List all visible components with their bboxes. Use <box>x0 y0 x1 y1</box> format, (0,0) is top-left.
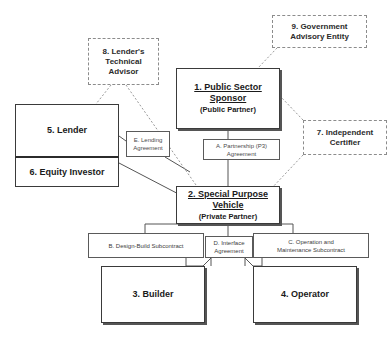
entity-equity-investor[interactable]: 6. Equity Investor <box>15 158 119 187</box>
entity-government-advisory-entity[interactable]: 9. Government Advisory Entity <box>272 15 367 48</box>
entity-operator[interactable]: 4. Operator <box>253 266 357 323</box>
line-certifier7-to-sponsor <box>281 97 303 120</box>
line-advisor9-to-sponsor <box>258 48 277 68</box>
line-advisor8-to-lender <box>96 85 111 104</box>
line-lender-to-lending <box>119 136 126 141</box>
equity-investor-title: 6. Equity Investor <box>29 167 104 178</box>
agreement-lending[interactable]: E. Lending Agreement <box>126 131 170 157</box>
agreement-partnership[interactable]: A. Partnership (P3) Agreement <box>203 139 280 160</box>
spv-role: (Private Partner) <box>199 212 257 222</box>
gov-advisory-title-line1: 9. Government <box>291 22 347 32</box>
partnership-label-line1: A. Partnership (P3) <box>216 142 267 150</box>
spv-title-line1: 2. Special Purpose <box>188 189 268 200</box>
sponsor-title-line1: 1. Public Sector <box>194 82 262 93</box>
advisor-title-line2: Technical <box>105 57 141 67</box>
entity-lender[interactable]: 5. Lender <box>15 104 119 158</box>
sponsor-title-line2: Sponsor <box>210 93 247 104</box>
agreement-design-build[interactable]: B. Design-Build Subcontract <box>88 233 204 258</box>
partnership-label-line2: Agreement <box>227 150 256 158</box>
om-label-line1: C. Operation and <box>288 238 334 246</box>
advisor-title-line1: 8. Lender's <box>103 47 145 57</box>
certifier-title-line1: 7. Independent <box>317 128 373 138</box>
design-build-label: B. Design-Build Subcontract <box>108 242 183 250</box>
entity-public-sector-sponsor[interactable]: 1. Public Sector Sponsor (Public Partner… <box>176 68 280 129</box>
lender-title: 5. Lender <box>47 125 87 136</box>
line-certifier7-to-spv <box>270 155 303 190</box>
builder-title: 3. Builder <box>132 289 173 300</box>
gov-advisory-title-line2: Advisory Entity <box>290 32 349 42</box>
operator-title: 4. Operator <box>281 289 329 300</box>
entity-independent-certifier[interactable]: 7. Independent Certifier <box>303 120 387 155</box>
agreement-operation-maintenance[interactable]: C. Operation and Maintenance Subcontract <box>253 233 369 258</box>
spv-title-line2: Vehicle <box>212 200 243 211</box>
agreement-interface[interactable]: D. Interface Agreement <box>205 236 253 258</box>
line-lending-to-spv <box>165 157 190 172</box>
line-interface-to-operator-a <box>245 258 253 266</box>
lending-label-line1: E. Lending <box>134 136 163 144</box>
diagram-canvas: 1. Public Sector Sponsor (Public Partner… <box>0 0 389 346</box>
entity-lenders-technical-advisor[interactable]: 8. Lender's Technical Advisor <box>88 38 159 85</box>
advisor-title-line3: Advisor <box>109 67 139 77</box>
certifier-title-line2: Certifier <box>330 138 361 148</box>
entity-special-purpose-vehicle[interactable]: 2. Special Purpose Vehicle (Private Part… <box>176 186 280 224</box>
entity-builder[interactable]: 3. Builder <box>101 266 205 323</box>
om-label-line2: Maintenance Subcontract <box>277 246 345 254</box>
interface-label-line1: D. Interface <box>213 239 244 247</box>
line-interface-to-builder-a <box>203 258 211 266</box>
lending-label-line2: Agreement <box>133 144 162 152</box>
sponsor-role: (Public Partner) <box>200 105 256 115</box>
interface-label-line2: Agreement <box>214 247 243 255</box>
